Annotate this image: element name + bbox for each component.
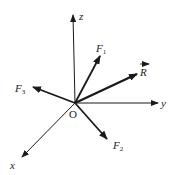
x-axis-label: x [9,159,15,171]
x-axis [22,103,75,157]
force-diagram: z y x O F1 F2 F3 R [0,0,177,175]
r-label: R [139,64,149,78]
y-axis-label: y [160,97,166,109]
z-axis-label: z [78,10,84,22]
f2-label: F2 [112,139,124,153]
f1-label: F1 [95,42,107,56]
z-axis [73,15,75,103]
svg-text:R: R [139,66,147,78]
force-f3-vector [33,87,75,103]
origin-label: O [69,108,77,120]
force-f2-vector [75,103,107,139]
resultant-r-vector [75,74,137,103]
axes [22,15,158,157]
force-vectors [33,56,137,139]
f3-label: F3 [14,82,26,96]
